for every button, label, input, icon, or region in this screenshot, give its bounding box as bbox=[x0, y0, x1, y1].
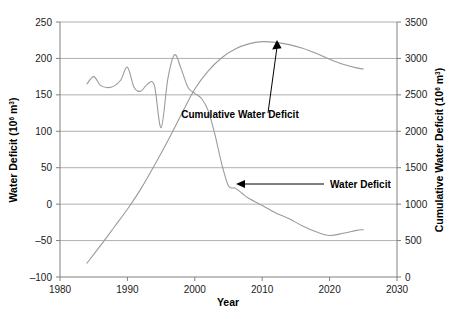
y-right-title-end: ) bbox=[433, 68, 445, 72]
y-left-title-main: Water Deficit (10 bbox=[7, 120, 19, 202]
y-left-tick-label: –50 bbox=[35, 235, 52, 246]
x-tick-label: 1980 bbox=[49, 284, 72, 295]
y-left-tick-label: 150 bbox=[35, 89, 52, 100]
y-right-tick-label: 3000 bbox=[405, 53, 428, 64]
y-right-axis-title: Cumulative Water Deficit (106 m3) bbox=[433, 68, 445, 232]
y-left-tick-label: 200 bbox=[35, 53, 52, 64]
y-right-tick-label: 1500 bbox=[405, 162, 428, 173]
y-right-tick-label: 2500 bbox=[405, 89, 428, 100]
x-tick-label: 2030 bbox=[386, 284, 409, 295]
y-left-tick-label: 250 bbox=[35, 17, 52, 28]
y-left-title-tail: m bbox=[7, 105, 19, 117]
y-right-tick-label: 2000 bbox=[405, 126, 428, 137]
x-tick-label: 2010 bbox=[251, 284, 274, 295]
water-deficit-chart: 250200150100500–50–100 35003000250020001… bbox=[0, 0, 456, 319]
x-axis-title: Year bbox=[217, 296, 239, 308]
x-tick-label: 2020 bbox=[318, 284, 341, 295]
x-tick-label: 1990 bbox=[116, 284, 139, 295]
cumulative-annotation-label: Cumulative Water Deficit bbox=[181, 109, 299, 120]
y-right-tick-label: 500 bbox=[405, 235, 422, 246]
y-left-tick-label: 100 bbox=[35, 126, 52, 137]
y-right-title-tail: m bbox=[433, 75, 445, 87]
chart-container: 250200150100500–50–100 35003000250020001… bbox=[0, 0, 456, 319]
y-right-title-main: Cumulative Water Deficit (10 bbox=[433, 91, 445, 233]
y-left-tick-label: 50 bbox=[41, 162, 53, 173]
water-deficit-annotation-label: Water Deficit bbox=[330, 179, 391, 190]
y-left-tick-label: –100 bbox=[30, 272, 53, 283]
y-left-axis-title: Water Deficit (106 m3) bbox=[7, 98, 19, 203]
y-left-tick-label: 0 bbox=[46, 199, 52, 210]
y-left-title-end: ) bbox=[7, 98, 19, 102]
chart-background bbox=[0, 0, 456, 319]
x-tick-label: 2000 bbox=[184, 284, 207, 295]
y-right-tick-label: 0 bbox=[405, 272, 411, 283]
y-right-tick-label: 1000 bbox=[405, 199, 428, 210]
y-right-tick-label: 3500 bbox=[405, 17, 428, 28]
